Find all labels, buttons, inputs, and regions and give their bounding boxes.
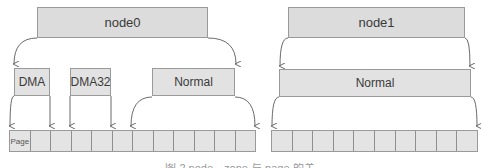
arrow-normal1-left [272, 97, 279, 126]
figure-caption: 图 2 node、zone 与 page 的关系图 [160, 163, 320, 168]
arrow-node1-left [280, 38, 288, 66]
arrow-normal1-right [471, 97, 477, 126]
connector-arrows [0, 0, 481, 168]
arrow-node1-right [465, 38, 470, 66]
arrow-normal0-left [131, 97, 152, 126]
arrow-dma-left [10, 96, 14, 126]
arrow-node0-right [208, 38, 236, 64]
arrow-normal0-right [235, 97, 255, 126]
arrow-node0-left [14, 38, 37, 64]
